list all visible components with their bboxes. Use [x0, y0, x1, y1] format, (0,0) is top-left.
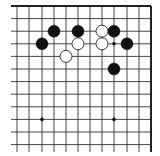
star-point-icon [112, 118, 116, 122]
black-stone[interactable] [72, 25, 84, 37]
black-stone[interactable] [36, 38, 48, 50]
stones-layer [36, 25, 133, 75]
white-stone[interactable] [60, 50, 72, 62]
white-stone[interactable] [96, 25, 108, 37]
black-stone[interactable] [121, 38, 133, 50]
go-board[interactable] [0, 0, 160, 156]
white-stone[interactable] [72, 38, 84, 50]
white-stone[interactable] [96, 38, 108, 50]
black-stone[interactable] [48, 25, 60, 37]
black-stone[interactable] [108, 63, 120, 75]
star-point-icon [112, 42, 116, 46]
go-board-canvas[interactable] [0, 0, 160, 156]
star-point-icon [40, 118, 44, 122]
black-stone[interactable] [108, 25, 120, 37]
